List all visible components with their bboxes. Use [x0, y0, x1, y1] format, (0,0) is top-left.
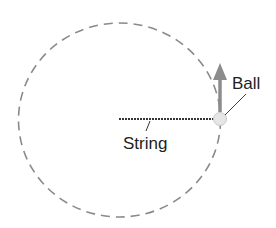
string-leader-line	[146, 121, 150, 131]
string-label: String	[123, 134, 167, 153]
ball-on-string-diagram: Ball String	[0, 0, 276, 228]
ball-leader-line	[225, 94, 246, 115]
ball	[214, 113, 227, 126]
ball-label: Ball	[232, 74, 260, 93]
